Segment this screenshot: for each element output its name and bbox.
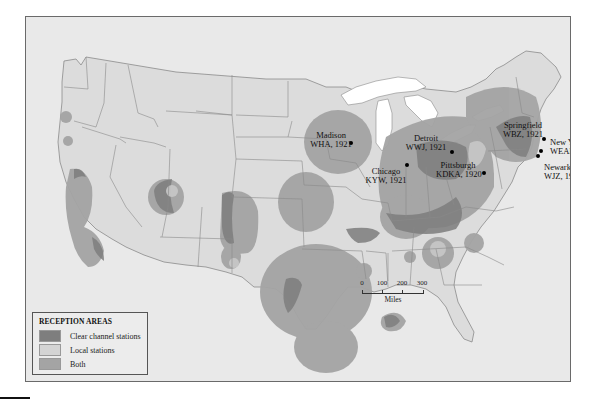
station-dot <box>536 154 540 158</box>
station-callsign: KDKA, 1920 <box>436 170 480 179</box>
legend-item-local: Local stations <box>39 343 141 357</box>
legend-label: Clear channel stations <box>70 332 141 341</box>
scale-tick-100: 100 <box>377 279 388 287</box>
station-label: DetroitWWJ, 1921 <box>404 134 448 152</box>
map-frame: MadisonWHA, 1921DetroitWWJ, 1921ChicagoK… <box>25 16 571 382</box>
station-label: New YorkWEAF, 1922 <box>550 138 571 156</box>
station-callsign: WEAF, 1922 <box>550 147 571 156</box>
legend-label: Both <box>70 360 86 369</box>
scale-mid-tick <box>382 290 383 293</box>
legend: RECEPTION AREAS Clear channel stations L… <box>32 312 148 375</box>
station-dot <box>482 171 486 175</box>
legend-label: Local stations <box>70 346 115 355</box>
station-label: MadisonWHA, 1921 <box>309 131 353 149</box>
legend-swatch-local <box>39 344 61 356</box>
station-label: SpringfieldWBZ, 1921 <box>501 121 545 139</box>
legend-item-clear-channel: Clear channel stations <box>39 329 141 343</box>
legend-title: RECEPTION AREAS <box>39 317 141 326</box>
station-label: ChicagoKYW, 1921 <box>364 167 408 185</box>
station-callsign: WWJ, 1921 <box>404 143 448 152</box>
legend-swatch-clear-channel <box>39 330 61 342</box>
station-dot <box>450 150 454 154</box>
legend-swatch-both <box>39 358 61 370</box>
scale-mid-tick <box>402 290 403 293</box>
scale-tick-0: 0 <box>360 279 364 287</box>
scale-line <box>362 290 424 294</box>
station-callsign: WBZ, 1921 <box>501 130 545 139</box>
station-callsign: KYW, 1921 <box>364 176 408 185</box>
station-dot <box>539 149 543 153</box>
scale-bar: 0 100 200 300 Miles <box>358 279 428 309</box>
legend-item-both: Both <box>39 357 141 371</box>
station-label: NewarkWJZ, 1921 <box>544 163 571 181</box>
scale-unit: Miles <box>358 295 428 304</box>
station-callsign: WHA, 1921 <box>309 140 353 149</box>
station-callsign: WJZ, 1921 <box>544 172 571 181</box>
scale-tick-200: 200 <box>397 279 408 287</box>
station-label: PittsburghKDKA, 1920 <box>436 161 480 179</box>
scale-tick-300: 300 <box>417 279 428 287</box>
